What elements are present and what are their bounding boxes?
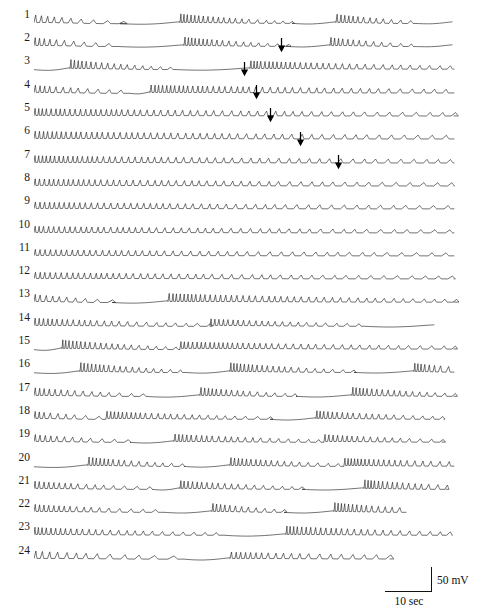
- stimulus-arrow-icon: [296, 132, 305, 146]
- trace-row: 22: [0, 492, 481, 516]
- trace-row-number-6: 6: [4, 123, 30, 137]
- trace-waveform: [34, 306, 464, 330]
- recording-figure: 123456789101112131415161718192021222324: [0, 0, 481, 611]
- trace-row-label: 6: [4, 123, 30, 137]
- trace-waveform: [34, 352, 464, 376]
- trace-row-number-18: 18: [4, 403, 30, 417]
- trace-row-number-4: 4: [4, 77, 30, 91]
- trace-row-number-14: 14: [4, 310, 30, 324]
- trace-waveform: [34, 119, 464, 143]
- trace-row-number-13: 13: [4, 286, 30, 300]
- trace-row-number-21: 21: [4, 473, 30, 487]
- trace-row-number-1: 1: [4, 7, 30, 21]
- trace-row: 24: [0, 539, 481, 563]
- trace-row-number-11: 11: [4, 240, 30, 254]
- trace-row: 7: [0, 143, 481, 167]
- trace-row-label: 4: [4, 77, 30, 91]
- trace-row-label: 17: [4, 380, 30, 394]
- trace-row-label: 13: [4, 286, 30, 300]
- trace-row-label: 16: [4, 356, 30, 370]
- trace-row-label: 9: [4, 193, 30, 207]
- trace-row-number-20: 20: [4, 450, 30, 464]
- trace-row: 23: [0, 515, 481, 539]
- trace-row-label: 12: [4, 263, 30, 277]
- trace-waveform: [34, 166, 464, 190]
- trace-waveform: [34, 492, 464, 516]
- trace-waveform: [34, 399, 464, 423]
- trace-waveform: [34, 213, 464, 237]
- stimulus-arrow-icon: [277, 38, 286, 52]
- trace-row-number-19: 19: [4, 426, 30, 440]
- trace-row-label: 22: [4, 496, 30, 510]
- trace-row: 20: [0, 446, 481, 470]
- trace-row-label: 11: [4, 240, 30, 254]
- trace-row-label: 10: [4, 217, 30, 231]
- trace-row: 21: [0, 469, 481, 493]
- trace-waveform: [34, 143, 464, 167]
- trace-waveform: [34, 259, 464, 283]
- trace-row-label: 23: [4, 519, 30, 533]
- trace-row-number-17: 17: [4, 380, 30, 394]
- trace-waveform: [34, 469, 464, 493]
- trace-row-number-3: 3: [4, 53, 30, 67]
- trace-waveform: [34, 539, 464, 563]
- scale-bar-horizontal: [385, 591, 432, 592]
- trace-row-label: 8: [4, 170, 30, 184]
- trace-row: 6: [0, 119, 481, 143]
- trace-row: 2: [0, 26, 481, 50]
- trace-row: 10: [0, 213, 481, 237]
- trace-row-number-22: 22: [4, 496, 30, 510]
- trace-row-label: 19: [4, 426, 30, 440]
- scale-bar-vertical: [431, 567, 432, 592]
- trace-row: 19: [0, 422, 481, 446]
- trace-row-number-5: 5: [4, 100, 30, 114]
- trace-waveform: [34, 236, 464, 260]
- trace-row: 4: [0, 73, 481, 97]
- trace-row-label: 20: [4, 450, 30, 464]
- scale-bar: 50 mV 10 sec: [385, 567, 481, 611]
- trace-row: 15: [0, 329, 481, 353]
- trace-row: 16: [0, 352, 481, 376]
- trace-waveform: [34, 3, 464, 27]
- trace-row-number-24: 24: [4, 543, 30, 557]
- trace-waveform: [34, 26, 464, 50]
- trace-row-number-16: 16: [4, 356, 30, 370]
- trace-row-label: 14: [4, 310, 30, 324]
- trace-row: 12: [0, 259, 481, 283]
- trace-row: 14: [0, 306, 481, 330]
- trace-waveform: [34, 282, 464, 306]
- trace-row: 18: [0, 399, 481, 423]
- trace-waveform: [34, 189, 464, 213]
- trace-waveform: [34, 49, 464, 73]
- trace-row: 5: [0, 96, 481, 120]
- trace-row-label: 21: [4, 473, 30, 487]
- stimulus-arrow-icon: [334, 155, 343, 169]
- trace-row-label: 3: [4, 53, 30, 67]
- stimulus-arrow-icon: [252, 85, 261, 99]
- trace-row-number-8: 8: [4, 170, 30, 184]
- trace-waveform: [34, 376, 464, 400]
- trace-row-label: 7: [4, 147, 30, 161]
- scale-bar-time-label: 10 sec: [394, 595, 423, 608]
- trace-waveform: [34, 73, 464, 97]
- trace-row: 11: [0, 236, 481, 260]
- stimulus-arrow-icon: [240, 62, 249, 76]
- trace-waveform: [34, 515, 464, 539]
- trace-waveform: [34, 446, 464, 470]
- trace-waveform: [34, 329, 464, 353]
- stimulus-arrow-icon: [266, 108, 275, 122]
- trace-row-label: 2: [4, 30, 30, 44]
- trace-row-label: 24: [4, 543, 30, 557]
- trace-row-label: 5: [4, 100, 30, 114]
- trace-row-number-9: 9: [4, 193, 30, 207]
- trace-row: 1: [0, 3, 481, 27]
- trace-row-label: 15: [4, 333, 30, 347]
- trace-row-label: 18: [4, 403, 30, 417]
- trace-row-number-23: 23: [4, 519, 30, 533]
- scale-bar-voltage-label: 50 mV: [437, 574, 469, 587]
- trace-waveform: [34, 96, 464, 120]
- trace-row: 17: [0, 376, 481, 400]
- trace-row-number-2: 2: [4, 30, 30, 44]
- trace-row-number-15: 15: [4, 333, 30, 347]
- trace-row-number-7: 7: [4, 147, 30, 161]
